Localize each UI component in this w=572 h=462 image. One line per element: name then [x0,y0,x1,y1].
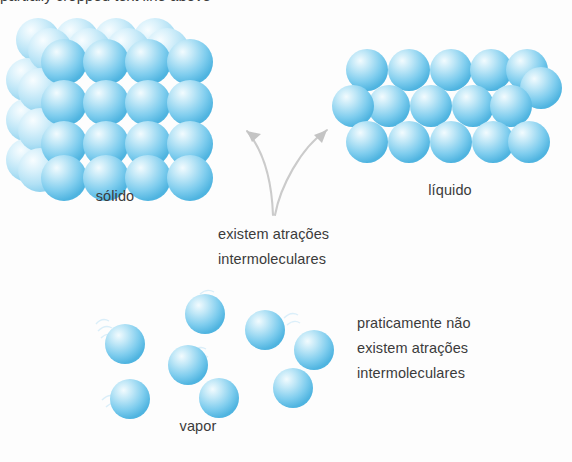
vapor-annotation-line-1: praticamente não [357,311,471,336]
arrowhead-right [314,130,327,143]
solid-label: sólido [60,188,170,204]
solid-lattice-svg [8,18,218,193]
vapor-diagram [88,288,318,413]
center-annotation-line-2: intermoleculares [218,247,329,272]
vapor-annotation-line-2: existem atrações [357,336,471,361]
vapor-sphere-group [105,294,334,419]
vapor-label: vapor [143,418,253,434]
branching-arrow-svg [230,118,340,218]
center-annotation: existem atrações intermoleculares [218,222,329,272]
solid-diagram [8,18,218,193]
center-annotation-line-1: existem atrações [218,222,329,247]
figure-states-of-matter: partially cropped text line above [0,0,572,462]
vapor-annotation: praticamente não existem atrações interm… [357,311,471,386]
liquid-spheres-svg [345,48,550,163]
vapor-spheres-svg [88,288,318,413]
cropped-text-fragment: partially cropped text line above [0,0,211,4]
vapor-annotation-line-3: intermoleculares [357,361,471,386]
cropped-text-above: partially cropped text line above [0,0,572,9]
liquid-diagram [345,48,550,163]
liquid-row-bottom [346,121,550,163]
branching-arrow [230,118,340,218]
liquid-row-middle [332,85,532,127]
liquid-label: líquido [395,182,505,198]
lattice-front-face [41,39,213,201]
